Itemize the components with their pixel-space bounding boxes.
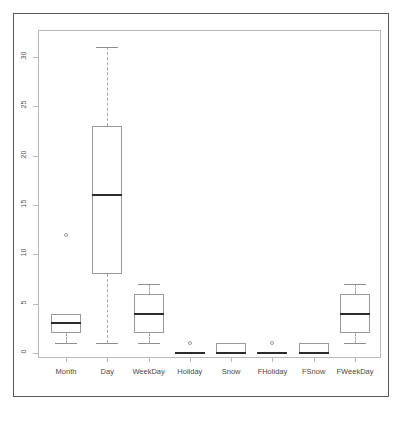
box-day [92,126,122,274]
y-axis-tick-label: 0 [20,344,27,360]
y-axis-tick-mark [33,254,38,255]
box-holiday [175,352,205,354]
x-axis-tick-mark [190,357,191,362]
x-axis-tick-mark [66,357,67,362]
y-axis-tick-mark [33,156,38,157]
y-axis-tick-mark [33,304,38,305]
y-axis-tick-mark [33,353,38,354]
x-axis-tick-mark [231,357,232,362]
median-weekday [134,313,164,315]
lower-whisker-cap-weekday [138,343,160,344]
lower-whisker-cap-fweekday [344,343,366,344]
y-axis-tick-mark [33,106,38,107]
y-axis-tick-mark [33,205,38,206]
upper-whisker-cap-fweekday [344,284,366,285]
y-axis-tick-label: 25 [20,97,27,113]
y-axis-tick-label: 30 [20,48,27,64]
median-fsnow [299,352,329,354]
lower-whisker-day [107,274,108,343]
upper-whisker-cap-day [96,47,118,48]
y-axis-tick-mark [33,57,38,58]
box-fholiday [257,352,287,354]
outlier-point-holiday [188,341,192,345]
lower-whisker-cap-month [55,343,77,344]
boxplot-figure: 051015202530MonthDayWeekDayHolidaySnowFH… [0,0,415,423]
outlier-point-fholiday [270,341,274,345]
lower-whisker-month [66,333,67,343]
upper-whisker-day [107,47,108,126]
median-fweekday [340,313,370,315]
x-axis-tick-mark [107,357,108,362]
x-axis-tick-mark [272,357,273,362]
x-axis-tick-mark [314,357,315,362]
x-axis-tick-mark [355,357,356,362]
upper-whisker-fweekday [355,284,356,294]
x-axis-tick-mark [149,357,150,362]
lower-whisker-fweekday [355,333,356,343]
median-month [51,322,81,324]
upper-whisker-cap-weekday [138,284,160,285]
y-axis-tick-label: 5 [20,294,27,310]
median-snow [216,352,246,354]
x-axis-tick-label-fweekday: FWeekDay [325,367,385,376]
lower-whisker-cap-day [96,343,118,344]
plot-drawing-surface: 051015202530MonthDayWeekDayHolidaySnowFH… [0,0,415,423]
median-day [92,194,122,196]
upper-whisker-weekday [149,284,150,294]
outlier-point-month [64,233,68,237]
y-axis-tick-label: 20 [20,146,27,162]
lower-whisker-weekday [149,333,150,343]
y-axis-tick-label: 15 [20,196,27,212]
y-axis-tick-label: 10 [20,245,27,261]
